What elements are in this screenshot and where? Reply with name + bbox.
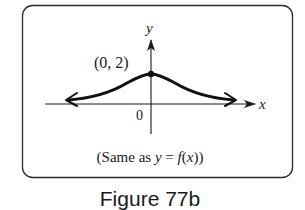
y-axis-label: y: [144, 20, 153, 36]
figure: y x (0, 2) 0 (Same as y = f(x)) Figure 7…: [0, 0, 305, 210]
point-label: (0, 2): [94, 54, 129, 72]
figure-note: (Same as y = f(x)): [97, 149, 204, 166]
origin-label: 0: [136, 108, 143, 123]
max-point: [148, 71, 154, 77]
figure-caption: Figure 77b: [100, 187, 200, 210]
x-axis-label: x: [258, 96, 266, 112]
